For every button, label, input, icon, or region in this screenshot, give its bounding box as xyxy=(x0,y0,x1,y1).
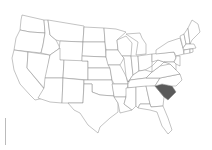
state-connecticut xyxy=(184,49,190,54)
us-map-svg xyxy=(0,0,212,150)
state-florida xyxy=(138,104,172,134)
state-oregon xyxy=(14,30,45,53)
state-north-dakota xyxy=(83,27,105,42)
state-wyoming xyxy=(58,41,83,62)
state-new-mexico xyxy=(62,78,84,103)
state-washington xyxy=(20,15,45,33)
state-ohio xyxy=(138,54,152,71)
state-kansas xyxy=(88,68,112,80)
scale-line xyxy=(5,118,6,145)
state-arkansas xyxy=(112,84,128,97)
state-colorado xyxy=(63,60,88,80)
state-maine xyxy=(188,20,200,44)
state-rhode-island xyxy=(190,49,193,53)
state-pennsylvania xyxy=(152,52,176,62)
state-south-dakota xyxy=(82,42,106,57)
